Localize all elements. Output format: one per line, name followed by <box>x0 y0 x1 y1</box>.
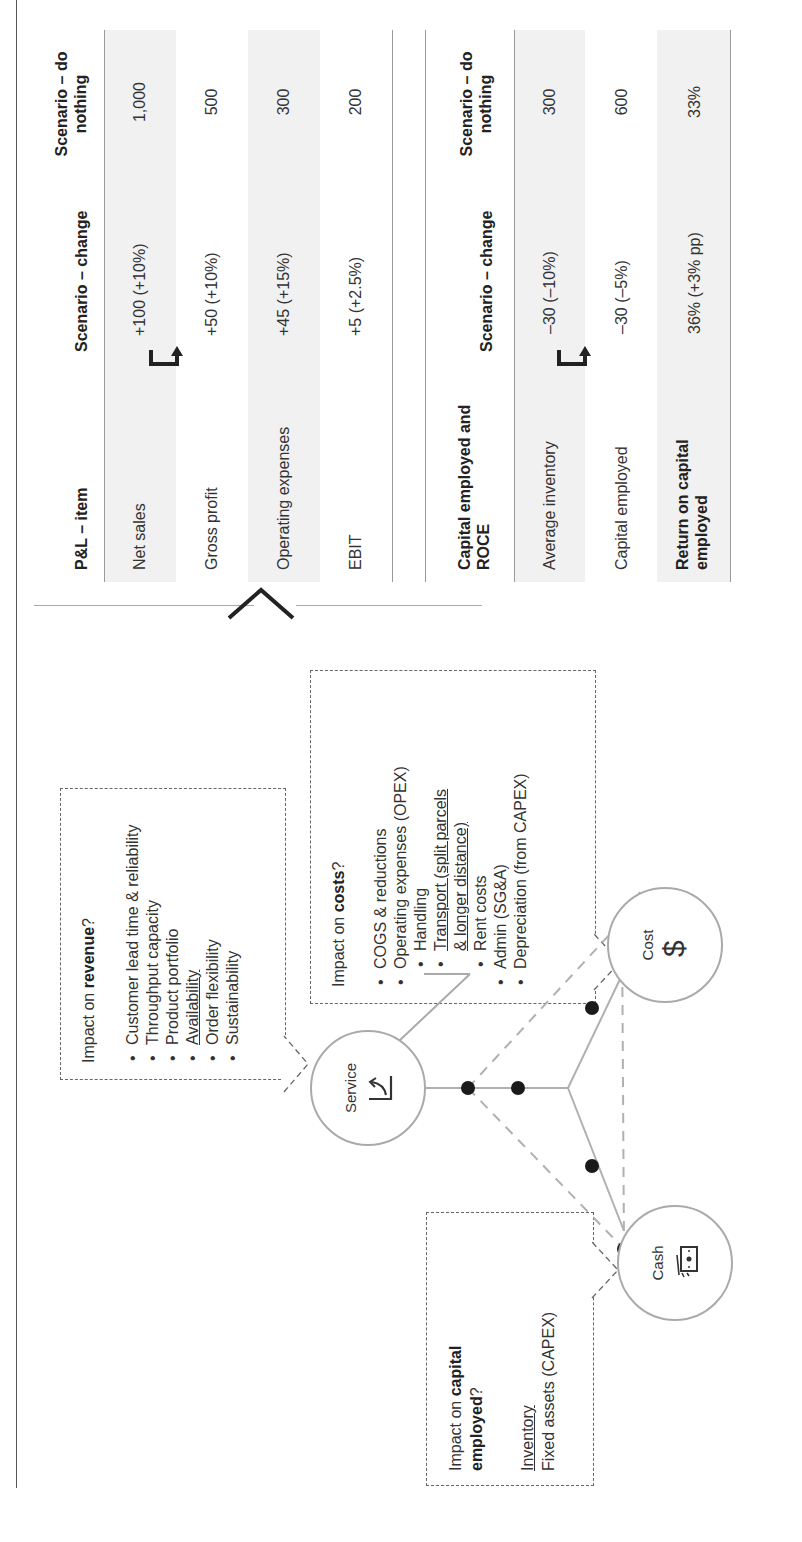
col-header-change: Scenario – change <box>477 211 496 352</box>
row-do-nothing: 200 <box>346 62 365 142</box>
col-header-item: P&L – item <box>72 488 91 570</box>
cost-node: Cost $ <box>615 895 715 995</box>
rising-chart-icon <box>366 1074 394 1102</box>
row-item: Capital employed <box>612 446 631 570</box>
row-change: –30 (–10%) <box>540 251 559 334</box>
bottom-rule <box>392 30 393 582</box>
row-do-nothing: 600 <box>612 62 631 142</box>
cash-label: Cash <box>649 1213 666 1313</box>
header-rule <box>104 30 105 582</box>
row-do-nothing: 1,000 <box>130 62 149 142</box>
row-item: Gross profit <box>202 487 221 570</box>
header-rule <box>514 30 515 582</box>
row-change: +5 (+2.5%) <box>346 257 365 336</box>
col-header-change: Scenario – change <box>72 211 91 352</box>
col-header-do-nothing: Scenario – do nothing <box>457 34 495 174</box>
row-item: Operating expenses <box>274 427 293 570</box>
service-node: Service <box>318 1038 418 1138</box>
section-divider <box>296 605 482 606</box>
row-do-nothing: 300 <box>274 62 293 142</box>
flow-arrow-icon <box>555 344 591 370</box>
row-change: +45 (+15%) <box>274 252 293 336</box>
row-change: 36% (+3% pp) <box>685 232 704 334</box>
row-change: +50 (+10%) <box>202 252 221 336</box>
row-item: Average inventory <box>540 441 559 570</box>
top-rule <box>425 30 426 582</box>
cash-node: Cash <box>625 1213 725 1313</box>
row-do-nothing: 500 <box>202 62 221 142</box>
row-item: EBIT <box>346 534 365 570</box>
section-divider <box>34 605 254 606</box>
flow-arrow-icon <box>147 344 183 370</box>
row-do-nothing: 300 <box>540 62 559 142</box>
chevron-right-icon <box>225 584 297 624</box>
service-label: Service <box>342 1038 359 1138</box>
bottom-rule <box>730 30 731 582</box>
banknotes-icon <box>675 1245 701 1279</box>
col-header-item: Capital employed and ROCE <box>455 380 493 570</box>
row-item: Return on capital employed <box>673 410 711 570</box>
capital-table: Capital employed and ROCE Scenario – cha… <box>425 30 735 582</box>
row-do-nothing: 33% <box>685 62 704 142</box>
diagram-canvas: Impact on revenue? Customer lead time & … <box>0 0 802 1542</box>
dollar-icon: $ <box>657 940 691 957</box>
row-item: Net sales <box>130 503 149 570</box>
row-change: +100 (+10%) <box>130 243 149 336</box>
cost-label: Cost <box>639 895 656 995</box>
col-header-do-nothing: Scenario – do nothing <box>52 34 90 174</box>
pnl-table: P&L – item Scenario – change Scenario – … <box>34 30 404 582</box>
row-change: –30 (–5%) <box>612 260 631 334</box>
